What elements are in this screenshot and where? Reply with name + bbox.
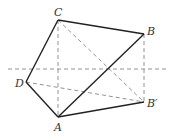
segment-DC [26,20,58,82]
label-Bprime: B′ [146,97,158,110]
label-C: C [54,6,63,19]
label-B: B [146,25,155,38]
label-D: D [14,77,24,90]
geometry-diagram: C B B′ D A [0,0,173,140]
label-A: A [53,121,62,134]
segment-AD [26,82,58,117]
